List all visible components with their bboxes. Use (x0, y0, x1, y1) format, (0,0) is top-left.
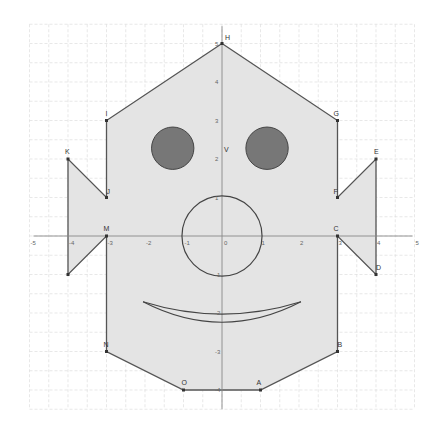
point-marker (221, 42, 224, 45)
point-B: B (336, 341, 343, 354)
point-D: D (375, 264, 382, 277)
point-label: N (104, 341, 109, 348)
point-label: K (65, 148, 70, 155)
point-label: J (107, 188, 111, 195)
point-label: D (376, 264, 381, 271)
point-marker (259, 389, 262, 392)
point-E: E (374, 148, 379, 161)
point-marker (67, 273, 70, 276)
point-marker (105, 350, 108, 353)
point-marker (182, 389, 185, 392)
x-tick-label: -3 (108, 240, 114, 246)
point-marker (336, 350, 339, 353)
y-tick-label: -3 (215, 349, 221, 355)
point-label: A (257, 379, 262, 386)
coordinate-plane: -5-4-3-2-101234554321-1-2-3-4 HGFEDCBAON… (0, 0, 432, 432)
point-label: M (104, 225, 110, 232)
point-label: G (334, 110, 339, 117)
point-I: I (105, 110, 108, 123)
point-marker (336, 235, 339, 238)
left-eye (152, 127, 194, 169)
x-tick-label: 4 (377, 240, 381, 246)
point-label: C (334, 225, 339, 232)
right-eye (246, 127, 288, 169)
point-marker (336, 119, 339, 122)
point-label: B (338, 341, 343, 348)
point-label: O (182, 379, 188, 386)
point-marker (375, 158, 378, 161)
point-marker (336, 196, 339, 199)
point-K: K (65, 148, 70, 161)
point-label: I (106, 110, 108, 117)
point-V: V (224, 146, 229, 153)
point-marker (105, 196, 108, 199)
point-label: F (334, 188, 338, 195)
x-tick-label: 5 (416, 240, 420, 246)
point-marker (105, 235, 108, 238)
point-label: E (374, 148, 379, 155)
point-label: V (224, 146, 229, 153)
x-tick-label: -5 (31, 240, 37, 246)
point-marker (105, 119, 108, 122)
point-marker (375, 273, 378, 276)
point-label: H (225, 34, 230, 41)
point-N: N (104, 341, 109, 354)
point-L (67, 273, 70, 276)
x-tick-label: -1 (185, 240, 191, 246)
y-tick-label: -1 (215, 272, 221, 278)
point-marker (67, 158, 70, 161)
y-tick-label: -2 (215, 310, 221, 316)
x-tick-label: -4 (69, 240, 75, 246)
x-tick-label: -2 (146, 240, 152, 246)
y-tick-label: -4 (215, 387, 221, 393)
